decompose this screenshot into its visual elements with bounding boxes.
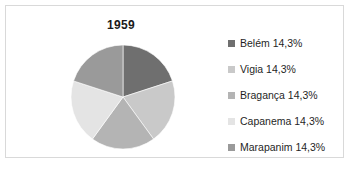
legend-item-label: Vigia 14,3%: [240, 63, 296, 75]
legend-item-label: Marapanim 14,3%: [240, 141, 325, 153]
pie-chart: [70, 44, 176, 150]
legend-item[interactable]: Vigia 14,3%: [228, 62, 296, 76]
legend-item-label: Belém 14,3%: [240, 37, 302, 49]
chart-title: 1959: [6, 18, 236, 32]
legend-swatch-icon: [228, 66, 235, 73]
chart-frame: 1959 Belém 14,3%Vigia 14,3%Bragança 14,3…: [5, 5, 344, 158]
legend-swatch-icon: [228, 40, 235, 47]
legend-item-label: Capanema 14,3%: [240, 115, 324, 127]
legend-item[interactable]: Capanema 14,3%: [228, 114, 324, 128]
legend-swatch-icon: [228, 118, 235, 125]
legend-item[interactable]: Marapanim 14,3%: [228, 140, 325, 154]
pie-slice-group: [71, 45, 175, 149]
chart-legend: Belém 14,3%Vigia 14,3%Bragança 14,3%Capa…: [228, 36, 343, 154]
legend-swatch-icon: [228, 144, 235, 151]
legend-item[interactable]: Belém 14,3%: [228, 36, 302, 50]
legend-item-label: Bragança 14,3%: [240, 89, 318, 101]
legend-item[interactable]: Bragança 14,3%: [228, 88, 318, 102]
legend-swatch-icon: [228, 92, 235, 99]
pie-plot-area: [18, 36, 223, 154]
